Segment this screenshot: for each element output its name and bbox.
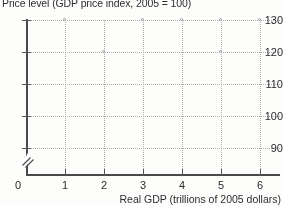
- x-tick-label-2: 2: [96, 180, 112, 191]
- gridline-vertical-1: [65, 20, 67, 175]
- x-tick-label-0: 0: [10, 180, 26, 191]
- x-tick-mark-6: [260, 169, 261, 176]
- grid-intersection-dot: [63, 18, 66, 21]
- y-tick-mark-100: [22, 116, 31, 117]
- y-tick-label-100: 100: [259, 111, 283, 122]
- y-tick-label-120: 120: [259, 47, 283, 58]
- y-tick-mark-130: [22, 20, 31, 21]
- grid-intersection-dot: [219, 18, 222, 21]
- x-tick-label-3: 3: [135, 180, 151, 191]
- y-tick-label-130: 130: [259, 15, 283, 26]
- x-tick-mark-2: [104, 169, 105, 176]
- y-tick-mark-90: [22, 148, 31, 149]
- gridline-vertical-3: [143, 20, 145, 175]
- gridline-vertical-4: [182, 20, 184, 175]
- y-tick-mark-120: [22, 52, 31, 53]
- y-tick-label-90: 90: [259, 143, 283, 154]
- x-tick-mark-3: [143, 169, 144, 176]
- grid-intersection-dot: [219, 50, 222, 53]
- gridline-vertical-2: [104, 20, 106, 175]
- grid-intersection-dot: [102, 50, 105, 53]
- x-tick-label-1: 1: [57, 180, 73, 191]
- x-tick-mark-4: [182, 169, 183, 176]
- x-tick-mark-5: [221, 169, 222, 176]
- x-tick-mark-1: [65, 169, 66, 176]
- x-axis-title: Real GDP (trillions of 2005 dollars): [120, 193, 281, 205]
- chart-figure: Price level (GDP price index, 2005 = 100…: [0, 0, 283, 206]
- plot-area: 130 120 110 100 90 0 1 2 3 4 5 6: [0, 0, 283, 206]
- x-tick-label-4: 4: [174, 180, 190, 191]
- x-tick-label-5: 5: [213, 180, 229, 191]
- x-tick-label-6: 6: [252, 180, 268, 191]
- y-tick-label-110: 110: [259, 79, 283, 90]
- grid-intersection-dot: [180, 18, 183, 21]
- axis-break-icon: [19, 152, 35, 170]
- y-tick-mark-110: [22, 84, 31, 85]
- gridline-vertical-5: [221, 20, 223, 175]
- grid-intersection-dot: [141, 18, 144, 21]
